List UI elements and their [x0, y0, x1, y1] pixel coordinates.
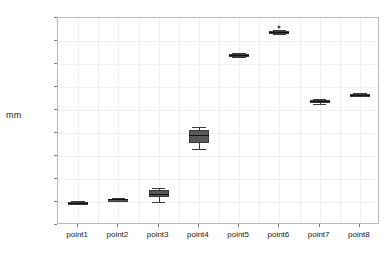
x-axis-tick-mark — [198, 224, 199, 227]
median-line — [350, 95, 370, 96]
x-axis-tick-label: point1 — [66, 230, 88, 239]
whisker-cap-lower — [232, 57, 245, 58]
x-axis-tick-label: point8 — [348, 230, 370, 239]
outlier-point — [278, 25, 281, 28]
box — [189, 130, 209, 144]
whisker-cap-upper — [192, 127, 205, 128]
median-line — [269, 32, 289, 33]
x-axis-tick-label: point6 — [267, 230, 289, 239]
median-line — [108, 199, 128, 200]
box-series — [58, 18, 378, 223]
x-axis-tick-mark — [319, 224, 320, 227]
x-axis-tick-mark — [278, 224, 279, 227]
x-axis-tick-label: point7 — [308, 230, 330, 239]
box-plot-chart: mm 0100200300400500600700800900 point1po… — [0, 0, 386, 258]
whisker-cap-lower — [152, 202, 165, 203]
y-axis-tick-group: 0100200300400500600700800900 — [0, 0, 57, 258]
x-axis-tick-label: point4 — [187, 230, 209, 239]
x-axis-tick-label: point3 — [147, 230, 169, 239]
whisker-cap-upper — [152, 188, 165, 189]
x-axis-tick-mark — [77, 224, 78, 227]
whisker-cap-lower — [313, 104, 326, 105]
median-line — [149, 194, 169, 195]
x-axis-tick-mark — [117, 224, 118, 227]
x-axis-tick-label: point2 — [106, 230, 128, 239]
median-line — [68, 203, 88, 204]
y-axis-tick-mark — [54, 224, 57, 225]
x-axis-tick-mark — [359, 224, 360, 227]
median-line — [310, 101, 330, 102]
whisker-cap-lower — [273, 34, 286, 35]
x-axis-tick-mark — [158, 224, 159, 227]
median-line — [229, 55, 249, 56]
x-axis-tick-mark — [238, 224, 239, 227]
plot-area — [57, 17, 379, 224]
x-axis-tick-label: point5 — [227, 230, 249, 239]
median-line — [189, 135, 209, 136]
whisker-cap-lower — [192, 149, 205, 150]
